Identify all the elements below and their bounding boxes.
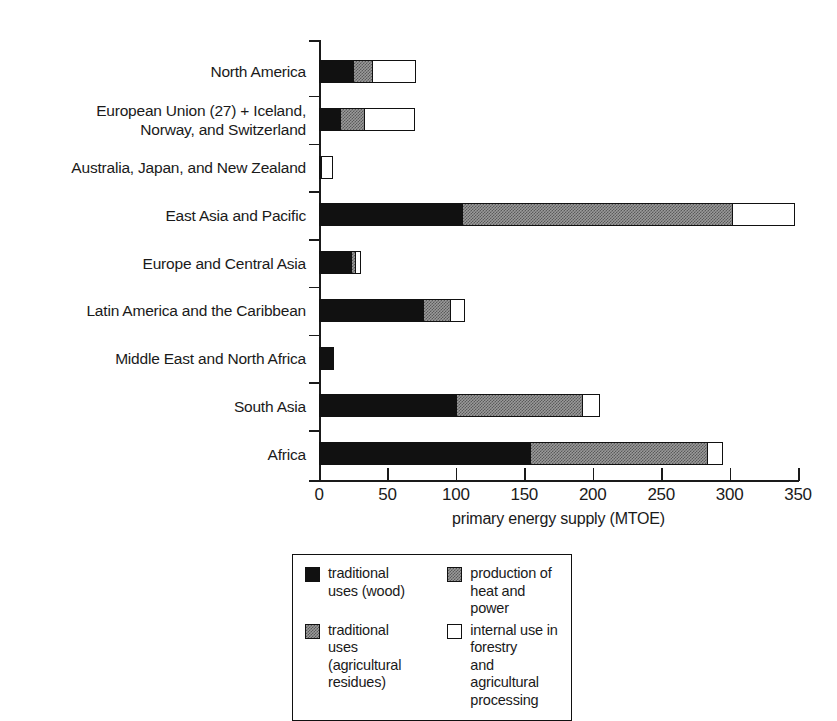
x-axis-tick-label: 50 (378, 485, 396, 505)
bar-segment[interactable] (320, 300, 423, 321)
category-axis-labels: North AmericaEuropean Union (27) + Icela… (0, 48, 306, 478)
category-label: Latin America and the Caribbean (0, 301, 306, 320)
bar-segment[interactable] (364, 109, 414, 130)
bar-segment[interactable] (462, 204, 732, 225)
bar-segment[interactable] (321, 157, 332, 178)
x-axis-line (319, 480, 799, 482)
stacked-bar[interactable] (319, 394, 600, 417)
y-axis-tick (309, 430, 320, 432)
legend-grid: traditional uses (wood)production of hea… (305, 565, 559, 709)
x-axis-title: primary energy supply (MTOE) (319, 510, 798, 528)
stacked-bar[interactable] (319, 251, 361, 274)
x-axis-tick (661, 468, 663, 481)
category-label: East Asia and Pacific (0, 206, 306, 225)
bar-segment[interactable] (355, 252, 360, 273)
y-axis-tick (309, 287, 320, 289)
bar-row (319, 144, 798, 192)
legend-item[interactable]: traditional uses (agricultural residues) (305, 622, 421, 710)
legend-swatch-white (447, 624, 462, 639)
x-axis-tick-label: 0 (314, 485, 323, 505)
stacked-bar[interactable] (319, 299, 465, 322)
bar-segment[interactable] (320, 395, 456, 416)
y-axis-tick (309, 191, 320, 193)
y-axis-tick (309, 382, 320, 384)
bar-row (319, 239, 798, 287)
x-axis-tick-label: 200 (579, 485, 606, 505)
bar-segment[interactable] (530, 443, 707, 464)
bar-row (319, 191, 798, 239)
x-axis-tick-label: 300 (716, 485, 743, 505)
x-axis-tick-label: 350 (784, 485, 811, 505)
legend-item[interactable]: internal use in forestry and agricultura… (447, 622, 559, 710)
x-axis-tick (319, 468, 321, 481)
bar-row (319, 430, 798, 478)
y-axis-tick (309, 239, 320, 241)
y-axis-tick (309, 335, 320, 337)
bar-segment[interactable] (732, 204, 795, 225)
bar-segment[interactable] (320, 61, 353, 82)
legend-label: internal use in forestry and agricultura… (470, 622, 559, 710)
chart-legend: traditional uses (wood)production of hea… (292, 554, 572, 721)
plot-area (319, 48, 798, 478)
category-label: South Asia (0, 397, 306, 416)
y-axis-tick (309, 40, 320, 42)
bar-segment[interactable] (320, 443, 530, 464)
bar-segment[interactable] (582, 395, 598, 416)
bar-row (319, 48, 798, 96)
y-axis-tick (309, 144, 320, 146)
x-axis-tick (387, 468, 389, 481)
category-label: Africa (0, 445, 306, 464)
legend-swatch-gray (447, 567, 462, 582)
bar-segment[interactable] (450, 300, 465, 321)
bar-row (319, 382, 798, 430)
stacked-bar[interactable] (319, 203, 795, 226)
legend-swatch-gray (305, 624, 320, 639)
category-label: Middle East and North Africa (0, 349, 306, 368)
bar-segment[interactable] (707, 443, 722, 464)
legend-label: traditional uses (agricultural residues) (328, 622, 421, 692)
x-axis-tick-label: 250 (647, 485, 674, 505)
x-axis-tick (798, 468, 800, 481)
stacked-bar[interactable] (319, 108, 415, 131)
x-axis-tick-label: 100 (442, 485, 469, 505)
x-axis-tick (456, 468, 458, 481)
stacked-bar[interactable] (319, 347, 334, 370)
category-label: North America (0, 62, 306, 81)
bar-segment[interactable] (340, 109, 364, 130)
bar-segment[interactable] (353, 61, 372, 82)
bar-segment[interactable] (423, 300, 450, 321)
legend-label: production of heat and power (470, 565, 559, 618)
x-axis-tick-label: 150 (511, 485, 538, 505)
stacked-bar[interactable] (319, 442, 723, 465)
bar-row (319, 287, 798, 335)
legend-label: traditional uses (wood) (328, 565, 421, 600)
y-axis-tick (309, 96, 320, 98)
x-axis-tick (524, 468, 526, 481)
bar-row (319, 96, 798, 144)
bar-row (319, 335, 798, 383)
bar-segment[interactable] (320, 109, 340, 130)
legend-item[interactable]: traditional uses (wood) (305, 565, 421, 618)
x-axis-tick (593, 468, 595, 481)
category-label: Australia, Japan, and New Zealand (0, 158, 306, 177)
stacked-bar[interactable] (319, 156, 333, 179)
category-label: European Union (27) + Iceland, Norway, a… (0, 101, 306, 139)
x-axis-tick (730, 468, 732, 481)
bar-segment[interactable] (320, 252, 351, 273)
bar-segment[interactable] (456, 395, 582, 416)
bar-segment[interactable] (320, 204, 462, 225)
bar-segment[interactable] (320, 348, 333, 369)
category-label: Europe and Central Asia (0, 254, 306, 273)
bar-segment[interactable] (372, 61, 415, 82)
stacked-bar[interactable] (319, 60, 416, 83)
legend-item[interactable]: production of heat and power (447, 565, 559, 618)
legend-swatch-black (305, 567, 320, 582)
